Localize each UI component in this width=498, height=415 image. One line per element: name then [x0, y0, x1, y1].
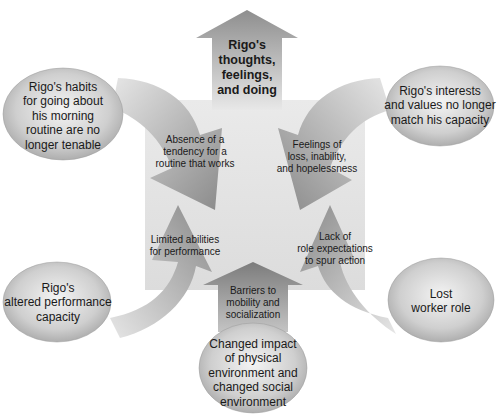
- arrow-label-line: socialization: [213, 309, 293, 321]
- arrow-label-line: loss, inability,: [272, 151, 362, 163]
- node-label-line: routine are no: [13, 123, 113, 137]
- arrow-label-line: Barriers to: [213, 285, 293, 297]
- node-label-line: environment and: [203, 366, 303, 380]
- output-label-line: thoughts,: [207, 53, 287, 68]
- node-interests-label: Rigo's interests and values no longer ma…: [380, 84, 498, 127]
- node-label-line: of physical: [203, 351, 303, 365]
- arrow-label-line: Lack of: [290, 231, 380, 243]
- node-label-line: Rigo's interests: [380, 84, 498, 98]
- output-label-line: feelings,: [207, 68, 287, 83]
- node-performance-label: Rigo's altered performance capacity: [2, 281, 114, 324]
- node-label-line: his morning: [13, 109, 113, 123]
- node-label-line: for going about: [13, 94, 113, 108]
- arrow-expectations-label: Lack of role expectations to spur action: [290, 231, 380, 267]
- node-label-line: capacity: [2, 310, 114, 324]
- arrow-routine-label: Absence of a tendency for a routine that…: [150, 134, 240, 170]
- node-label-line: worker role: [391, 301, 491, 315]
- node-label-line: Rigo's habits: [13, 80, 113, 94]
- arrow-label-line: Absence of a: [150, 134, 240, 146]
- node-habits-label: Rigo's habits for going about his mornin…: [13, 80, 113, 152]
- node-label-line: match his capacity: [380, 113, 498, 127]
- arrow-label-line: to spur action: [290, 255, 380, 267]
- arrow-abilities-label: Limited abilities for performance: [140, 234, 230, 258]
- node-role-label: Lost worker role: [391, 287, 491, 316]
- node-label-line: Lost: [391, 287, 491, 301]
- output-label-line: Rigo's: [207, 38, 287, 53]
- node-label-line: and values no longer: [380, 98, 498, 112]
- arrow-label-line: for performance: [140, 246, 230, 258]
- arrow-label-line: routine that works: [150, 158, 240, 170]
- node-label-line: altered performance: [2, 295, 114, 309]
- node-label-line: changed social: [203, 380, 303, 394]
- node-label-line: longer tenable: [13, 138, 113, 152]
- arrow-feelings-label: Feelings of loss, inability, and hopeles…: [272, 139, 362, 175]
- node-environment-label: Changed impact of physical environment a…: [203, 337, 303, 409]
- arrow-label-line: mobility and: [213, 297, 293, 309]
- output-label-line: and doing: [207, 83, 287, 98]
- arrow-barriers-label: Barriers to mobility and socialization: [213, 285, 293, 321]
- output-label: Rigo's thoughts, feelings, and doing: [207, 38, 287, 98]
- arrow-label-line: and hopelessness: [272, 163, 362, 175]
- node-label-line: environment: [203, 395, 303, 409]
- node-label-line: Rigo's: [2, 281, 114, 295]
- arrow-label-line: role expectations: [290, 243, 380, 255]
- arrow-label-line: tendency for a: [150, 146, 240, 158]
- arrow-label-line: Feelings of: [272, 139, 362, 151]
- node-label-line: Changed impact: [203, 337, 303, 351]
- arrow-label-line: Limited abilities: [140, 234, 230, 246]
